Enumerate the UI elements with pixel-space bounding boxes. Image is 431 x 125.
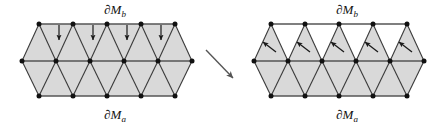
figure-root: ∂Mb ∂Ma [0, 0, 431, 125]
triangulation-figure: ∂Mb ∂Ma [0, 0, 431, 125]
